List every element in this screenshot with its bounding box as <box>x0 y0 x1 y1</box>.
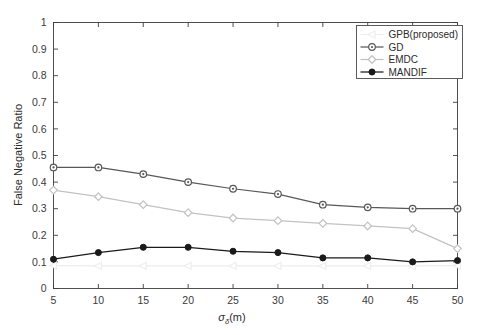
y-tick-label: 0.2 <box>32 229 47 241</box>
x-tick-label: 30 <box>272 294 284 306</box>
y-tick-label: 0.7 <box>32 96 47 108</box>
data-point-core <box>97 166 99 168</box>
data-point-core <box>187 181 189 183</box>
data-point-core <box>52 166 54 168</box>
x-tick-label: 40 <box>362 294 374 306</box>
legend-item-label: GD <box>389 42 404 53</box>
x-tick-label: 15 <box>137 294 149 306</box>
data-point-core <box>277 193 279 195</box>
x-tick-label: 20 <box>182 294 194 306</box>
data-point <box>410 259 416 265</box>
x-tick-label: 45 <box>407 294 419 306</box>
x-axis-label-unit: (m) <box>229 311 246 323</box>
y-tick-label: 0.8 <box>32 69 47 81</box>
y-tick-label: 1 <box>41 16 47 28</box>
data-point-core <box>456 208 458 210</box>
y-tick-label: 0.3 <box>32 202 47 214</box>
y-tick-label: 0.4 <box>32 176 47 188</box>
data-point <box>454 258 460 264</box>
y-tick-label: 0.6 <box>32 123 47 135</box>
data-point-core <box>371 46 373 48</box>
y-tick-label: 0.5 <box>32 149 47 161</box>
data-point <box>185 244 191 250</box>
x-tick-label: 10 <box>93 294 105 306</box>
data-point-core <box>367 206 369 208</box>
data-point <box>140 244 146 250</box>
data-point <box>95 250 101 256</box>
legend[interactable]: GPB(proposed)GDEMDCMANDIF <box>357 26 463 79</box>
legend-item-label: EMDC <box>389 54 418 65</box>
x-tick-label: 5 <box>51 294 57 306</box>
legend-item-label: MANDIF <box>389 67 427 78</box>
data-point-core <box>411 208 413 210</box>
y-tick-label: 0 <box>41 282 47 294</box>
data-point-core <box>232 188 234 190</box>
x-tick-label: 25 <box>227 294 239 306</box>
data-point <box>320 255 326 261</box>
data-point <box>365 255 371 261</box>
y-axis-label: False Negative Ratio <box>12 104 24 206</box>
y-tick-label: 0.9 <box>32 43 47 55</box>
data-point <box>369 69 375 75</box>
data-point <box>230 248 236 254</box>
data-point-core <box>142 173 144 175</box>
legend-item-gpb-proposed[interactable]: GPB(proposed) <box>361 29 458 40</box>
x-tick-label: 50 <box>452 294 464 306</box>
data-point <box>275 250 281 256</box>
figure-canvas: 5101520253035404550 00.10.20.30.40.50.60… <box>0 0 484 335</box>
legend-item-label: GPB(proposed) <box>389 29 458 40</box>
x-tick-label: 35 <box>317 294 329 306</box>
data-point-core <box>322 204 324 206</box>
y-tick-label: 0.1 <box>32 256 47 268</box>
data-point <box>50 256 56 262</box>
